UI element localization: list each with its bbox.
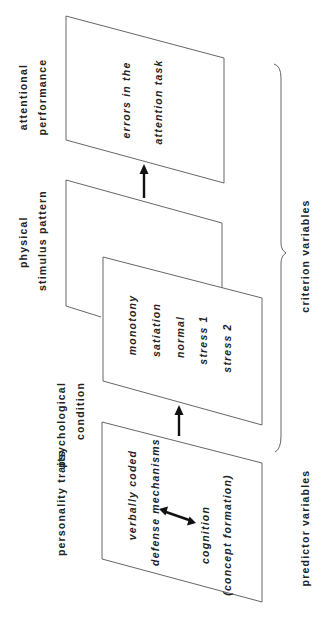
criterion-brace (274, 64, 286, 452)
arrow-to-psychological-icon (175, 405, 184, 436)
attentional-performance-panel (66, 16, 224, 183)
label-attentional-line1: attentional (17, 64, 29, 130)
item-stress-1: stress 1 (197, 315, 209, 364)
label-criterion-variables: criterion variables (299, 199, 311, 312)
label-physical-line2: stimulus pattern (36, 190, 48, 291)
label-predictor-variables: predictor variables (299, 470, 311, 587)
label-personality: personality traits (55, 450, 67, 556)
item-monotony: monotony (126, 295, 138, 355)
item-stress-2: stress 2 (221, 323, 233, 372)
diagram-canvas: attentional performance physical stimulu… (0, 0, 332, 617)
label-physical-line1: physical (17, 216, 29, 268)
arrow-to-attentional-icon (140, 164, 149, 198)
item-errors-line1: errors in the (120, 62, 132, 139)
item-concept-formation: (concept formation) (221, 474, 233, 595)
item-defense-mechanisms: defense mechanisms (149, 438, 161, 566)
item-verbally-coded: verbally coded (126, 450, 138, 540)
item-cognition: cognition (199, 506, 211, 564)
item-normal: normal (174, 316, 186, 358)
label-psychological-line2: condition (74, 382, 86, 440)
item-satiation: satiation (150, 303, 162, 357)
item-errors-line2: attention task (152, 59, 164, 144)
label-attentional-line2: performance (36, 59, 48, 136)
